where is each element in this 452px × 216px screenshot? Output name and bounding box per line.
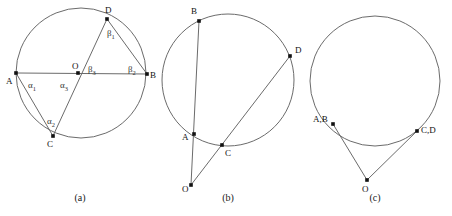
point-label-b-D: D	[295, 45, 302, 55]
tangent-ocd	[367, 131, 417, 180]
caption-c: (c)	[369, 192, 380, 204]
vertex-dot-c-CD	[415, 129, 419, 133]
secant-oab	[191, 21, 199, 185]
point-label-c-CD: C,D	[421, 125, 436, 135]
vertex-dot-b-D	[288, 54, 292, 58]
panel-c: A,BC,DO(c)	[310, 16, 440, 204]
angle-label-a-beta-3: β3	[88, 64, 96, 76]
vertex-dot-a-C	[51, 134, 55, 138]
vertex-dot-b-B	[197, 19, 201, 23]
point-label-b-B: B	[191, 6, 197, 16]
secant-ocd	[191, 56, 290, 185]
angle-label-a-beta-1: β1	[107, 28, 115, 40]
panel-a: ABCDOα1α2α3β1β2β3(a)	[6, 5, 156, 204]
circle-geometry-figure: ABCDOα1α2α3β1β2β3(a)BDACO(b)A,BC,DO(c)	[0, 0, 452, 216]
chord-ac	[16, 73, 53, 136]
chord-cd	[53, 19, 107, 136]
circle-outline-b	[162, 14, 294, 146]
vertex-dot-c-AB	[331, 122, 335, 126]
vertex-dot-a-O	[76, 71, 80, 75]
vertex-dot-b-A	[192, 132, 196, 136]
angle-label-a-alpha-3: α3	[60, 80, 68, 92]
point-label-a-C: C	[47, 139, 53, 149]
caption-b: (b)	[222, 192, 234, 204]
vertex-dot-b-C	[220, 143, 224, 147]
point-label-b-O: O	[182, 184, 189, 194]
point-label-b-C: C	[225, 148, 231, 158]
angle-label-a-alpha-1: α1	[28, 80, 36, 92]
angle-label-a-alpha-2: α2	[47, 116, 55, 128]
vertex-dot-a-D	[105, 17, 109, 21]
point-label-a-B: B	[150, 70, 156, 80]
caption-a: (a)	[74, 192, 85, 204]
panels-layer: ABCDOα1α2α3β1β2β3(a)BDACO(b)A,BC,DO(c)	[6, 5, 440, 204]
point-label-b-A: A	[182, 132, 189, 142]
vertex-dot-a-B	[145, 72, 149, 76]
vertex-dot-c-O	[365, 178, 369, 182]
point-label-a-D: D	[105, 5, 112, 15]
tangent-oab	[333, 124, 367, 180]
panel-b: BDACO(b)	[162, 6, 302, 204]
point-label-a-O: O	[72, 61, 79, 71]
vertex-dot-a-A	[14, 71, 18, 75]
point-label-a-A: A	[6, 76, 13, 86]
vertex-dot-b-O	[189, 183, 193, 187]
figure-root: ABCDOα1α2α3β1β2β3(a)BDACO(b)A,BC,DO(c)	[0, 0, 452, 216]
point-label-c-AB: A,B	[313, 114, 328, 124]
point-label-c-O: O	[362, 184, 369, 194]
